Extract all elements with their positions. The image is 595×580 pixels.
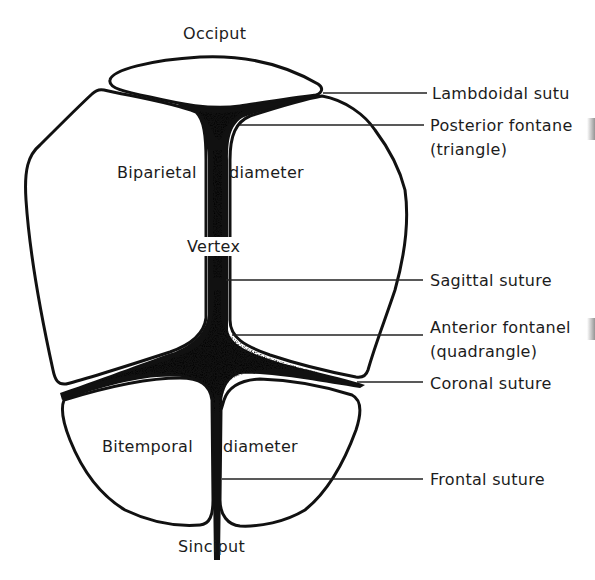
callout-posterior-fontanel: Posterior fontane [430, 116, 573, 135]
scan-edge-shadow [587, 118, 595, 140]
callout-anterior-fontanel: Anterior fontanel [430, 318, 571, 337]
label-vertex: Vertex [186, 237, 241, 256]
label-bitemporal: Bitemporal [102, 437, 193, 456]
left-parietal-bone [26, 90, 206, 384]
label-occiput: Occiput [183, 24, 246, 43]
scan-edge-shadow [587, 318, 595, 340]
label-sinciput: Sinciput [178, 537, 245, 556]
callout-frontal-suture: Frontal suture [430, 470, 545, 489]
label-biparietal-diameter: diameter [229, 163, 304, 182]
callout-coronal-suture: Coronal suture [430, 374, 552, 393]
callout-lambdoidal-suture: Lambdoidal sutu [432, 84, 570, 103]
label-biparietal: Biparietal [117, 163, 197, 182]
fetal-skull-diagram: Occiput Biparietal diameter Vertex Bitem… [0, 0, 595, 580]
callout-posterior-fontanel-shape: (triangle) [430, 140, 507, 159]
label-bitemporal-diameter: diameter [223, 437, 298, 456]
callout-sagittal-suture: Sagittal suture [430, 271, 552, 290]
callout-anterior-fontanel-shape: (quadrangle) [430, 342, 537, 361]
